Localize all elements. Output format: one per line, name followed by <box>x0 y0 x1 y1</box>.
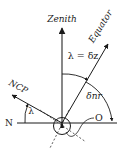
observer-label: O <box>95 112 103 123</box>
delta-nr-label: δnr <box>86 91 102 101</box>
zenith-label: Zenith <box>46 14 77 24</box>
north-label: N <box>5 118 13 128</box>
celestial-geometry-diagram: Zenith Equator NCP N λ = δz δnr λ O <box>0 0 124 166</box>
equator-label: Equator <box>86 8 115 46</box>
ncp-label: NCP <box>6 77 29 96</box>
lambda-delta-z-arc <box>62 74 88 80</box>
lambda-label: λ <box>28 106 34 116</box>
lambda-eq-delta-z-label: λ = δz <box>68 50 99 61</box>
ncp-line <box>12 95 62 123</box>
